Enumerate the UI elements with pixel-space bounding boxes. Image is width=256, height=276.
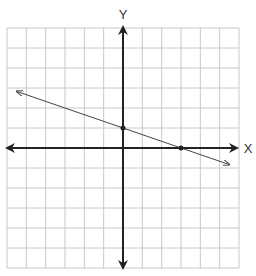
intercept-point bbox=[121, 126, 126, 131]
y-axis-label: Y bbox=[119, 7, 128, 22]
coordinate-plane: Y X bbox=[0, 0, 256, 276]
x-axis-label: X bbox=[244, 141, 253, 156]
intercept-point bbox=[179, 146, 184, 151]
axes bbox=[7, 27, 237, 268]
